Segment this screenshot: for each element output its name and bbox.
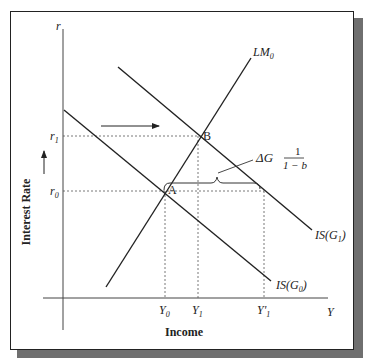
x-axis-title: Income [165,325,204,339]
delta-g-label: ΔG [255,150,274,165]
is-g1-label: IS(G1) [314,228,346,244]
point-a-label: A [168,183,177,197]
y0-label: Y0 [159,303,170,319]
y1prime-label: Y'1 [257,303,270,319]
is-lm-diagram: r Y r1 r0 Y0 Y1 Y'1 A B LM0 IS(G0) IS(G1… [0,0,367,360]
lm0-curve [106,58,251,287]
fraction-denominator: 1 − b [283,159,307,171]
r1-label: r1 [50,129,59,145]
annotation-leader [218,160,253,173]
y1-label: Y1 [192,303,203,319]
fraction-numerator: 1 [295,145,301,157]
is-g1-curve [118,67,312,230]
r0-label: r0 [50,184,59,200]
delta-brace [164,177,260,190]
y-axis-symbol: r [56,19,61,33]
x-axis-symbol: Y [327,305,335,319]
point-b-label: B [203,129,211,143]
is-g0-label: IS(G0) [275,278,307,294]
lm0-label: LM0 [252,45,274,61]
y-axis-title: Interest Rate [19,178,33,245]
